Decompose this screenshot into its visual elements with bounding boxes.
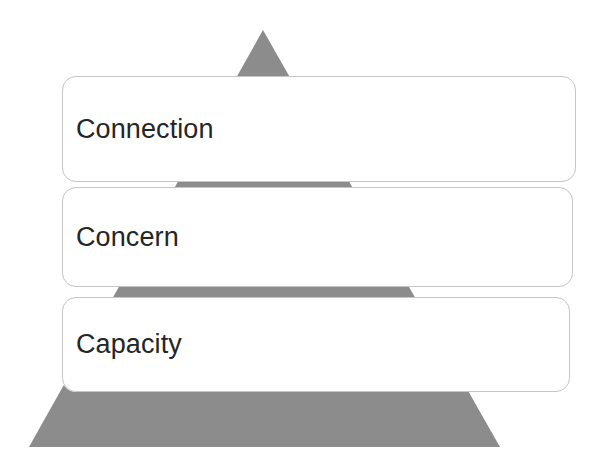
pyramid-level-label-capacity: Capacity [63, 331, 182, 358]
pyramid-level-label-connection: Connection [63, 116, 214, 143]
pyramid-level-connection[interactable]: Connection [62, 76, 576, 182]
pyramid-level-label-concern: Concern [63, 224, 179, 251]
pyramid-level-concern[interactable]: Concern [62, 187, 573, 287]
pyramid-level-capacity[interactable]: Capacity [62, 297, 570, 392]
pyramid-diagram-canvas: Connection Concern Capacity [0, 0, 601, 473]
